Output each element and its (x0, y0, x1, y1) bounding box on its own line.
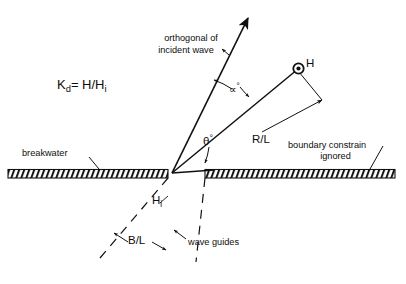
incident-height-label: Hi (152, 194, 162, 209)
radius-dimension-line (262, 72, 322, 132)
boundary-label-line1: boundary constrain (288, 140, 366, 150)
alpha-symbol: ∝ (229, 83, 237, 95)
incident-height-subscript: i (160, 200, 162, 209)
theta-angle-leader (205, 147, 209, 163)
kd-expression: = H/H (71, 77, 105, 92)
point-h-label: H (306, 57, 314, 70)
diagram-canvas: Kd= H/Hi orthogonal of incident wave ∝° … (0, 0, 406, 284)
breakwater-left (8, 170, 168, 179)
breakwater-label-leader (89, 157, 99, 169)
kd-symbol: K (57, 77, 66, 92)
radius-ratio-label: R/L (252, 133, 270, 146)
theta-angle-label: θ° (203, 133, 213, 148)
theta-degree-symbol: ° (209, 133, 213, 143)
point-h-marker (293, 63, 303, 73)
gap-ratio-label: B/L (128, 234, 145, 247)
boundary-label-line2: ignored (288, 151, 383, 161)
kd-expression-subscript: i (104, 84, 106, 94)
wave-guides-label: wave guides (188, 237, 239, 247)
wave-guide-right (196, 178, 205, 262)
alpha-degree-symbol: ° (237, 82, 240, 91)
orthogonal-label-line2: incident wave (143, 45, 229, 55)
wave-guides-label-leader (174, 230, 186, 239)
alpha-angle-label: ∝° (229, 82, 240, 95)
kd-formula: Kd= H/Hi (57, 78, 107, 94)
orthogonal-label-line1: orthogonal of (148, 33, 234, 43)
breakwater-label: breakwater (22, 148, 67, 158)
breakwater-right (205, 170, 395, 179)
